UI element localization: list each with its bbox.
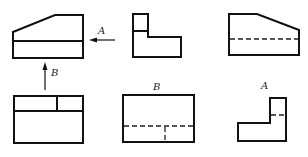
front-view (13, 15, 83, 58)
arrow-a-label: A (97, 25, 105, 36)
top-view (14, 96, 83, 143)
view-a: A (238, 80, 286, 141)
projection-diagram: A B B A (0, 0, 308, 157)
arrow-b: B (43, 62, 59, 90)
view-b-title: B (152, 81, 160, 92)
view-a-title: A (260, 80, 268, 91)
arrow-a: A (89, 25, 115, 43)
view-b: B (123, 81, 194, 142)
arrow-b-label: B (50, 67, 58, 78)
side-view-l (133, 14, 181, 57)
right-view (229, 14, 299, 55)
